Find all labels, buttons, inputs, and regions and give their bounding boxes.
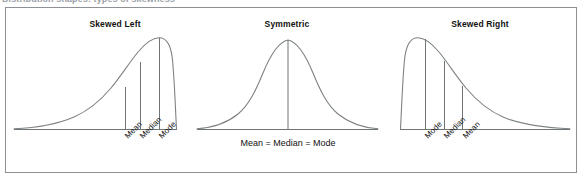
caption-text: Distribution shapes: types of skewness	[2, 0, 175, 4]
tick-label-mean-median-mode-symmetric: Mean = Median = Mode	[215, 138, 361, 148]
caption-strip: Distribution shapes: types of skewness	[0, 0, 584, 6]
panel-title-symmetric: Symmetric	[232, 19, 342, 29]
panel-title-skewed-right: Skewed Right	[425, 19, 535, 29]
figure-root: Distribution shapes: types of skewness S…	[0, 0, 584, 184]
figure-border-box	[5, 7, 577, 173]
panel-title-skewed-left: Skewed Left	[60, 19, 170, 29]
